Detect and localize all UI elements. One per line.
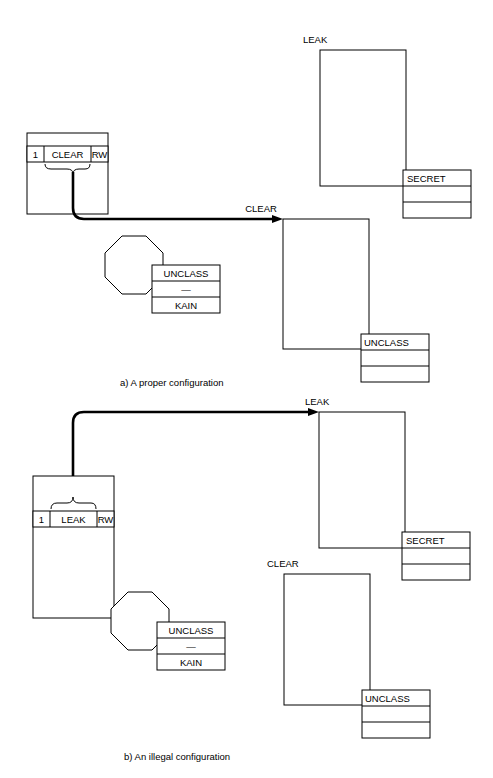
subject-box	[27, 133, 108, 214]
label-compartment: KAIN	[175, 300, 197, 311]
capability-index: 1	[33, 149, 38, 160]
label-level: UNCLASS	[164, 268, 209, 279]
flow-arrowhead	[272, 215, 283, 223]
object-leak-box	[319, 412, 405, 548]
label-compartment: KAIN	[180, 657, 202, 668]
object-leak-name: LEAK	[303, 34, 328, 45]
capability-index: 1	[39, 514, 44, 525]
panel-a-subject-label-table: UNCLASS — KAIN	[152, 265, 220, 313]
panel-a: 1 CLEAR RW CLEAR UNCLASS — KAIN LEAK	[27, 34, 471, 388]
object-clear-label-level: UNCLASS	[364, 337, 409, 348]
object-clear-box	[283, 219, 369, 349]
label-separator: —	[186, 641, 196, 652]
object-leak-label-level: SECRET	[406, 535, 445, 546]
panel-a-object-leak: LEAK SECRET	[303, 34, 471, 218]
flow-arrowhead	[308, 408, 319, 416]
panel-a-object-clear: UNCLASS	[283, 219, 429, 382]
capability-rights: RW	[92, 149, 108, 160]
panel-b: 1 LEAK RW UNCLASS — KAIN LEAK SECRET	[33, 396, 470, 762]
capability-name: LEAK	[61, 514, 86, 525]
panel-b-subject-process: 1 LEAK RW	[33, 476, 114, 618]
panel-a-subject-process: 1 CLEAR RW	[27, 133, 108, 214]
label-level: UNCLASS	[169, 625, 214, 636]
object-clear-label-level: UNCLASS	[365, 693, 410, 704]
flow-target-label: CLEAR	[245, 203, 277, 214]
label-separator: —	[181, 284, 191, 295]
panel-a-caption: a) A proper configuration	[120, 377, 224, 388]
panel-b-caption: b) An illegal configuration	[124, 751, 230, 762]
panel-b-subject-label-table: UNCLASS — KAIN	[157, 622, 225, 670]
object-clear-box	[284, 574, 370, 705]
object-leak-box	[320, 50, 406, 186]
panel-b-object-leak: LEAK SECRET	[305, 396, 470, 580]
capability-name: CLEAR	[52, 149, 84, 160]
capability-rights: RW	[98, 514, 114, 525]
figure-canvas: 1 CLEAR RW CLEAR UNCLASS — KAIN LEAK	[0, 0, 493, 778]
object-clear-name: CLEAR	[267, 558, 299, 569]
object-leak-label-level: SECRET	[407, 173, 446, 184]
panel-b-object-clear: CLEAR UNCLASS	[267, 558, 430, 738]
object-leak-name: LEAK	[305, 396, 330, 407]
